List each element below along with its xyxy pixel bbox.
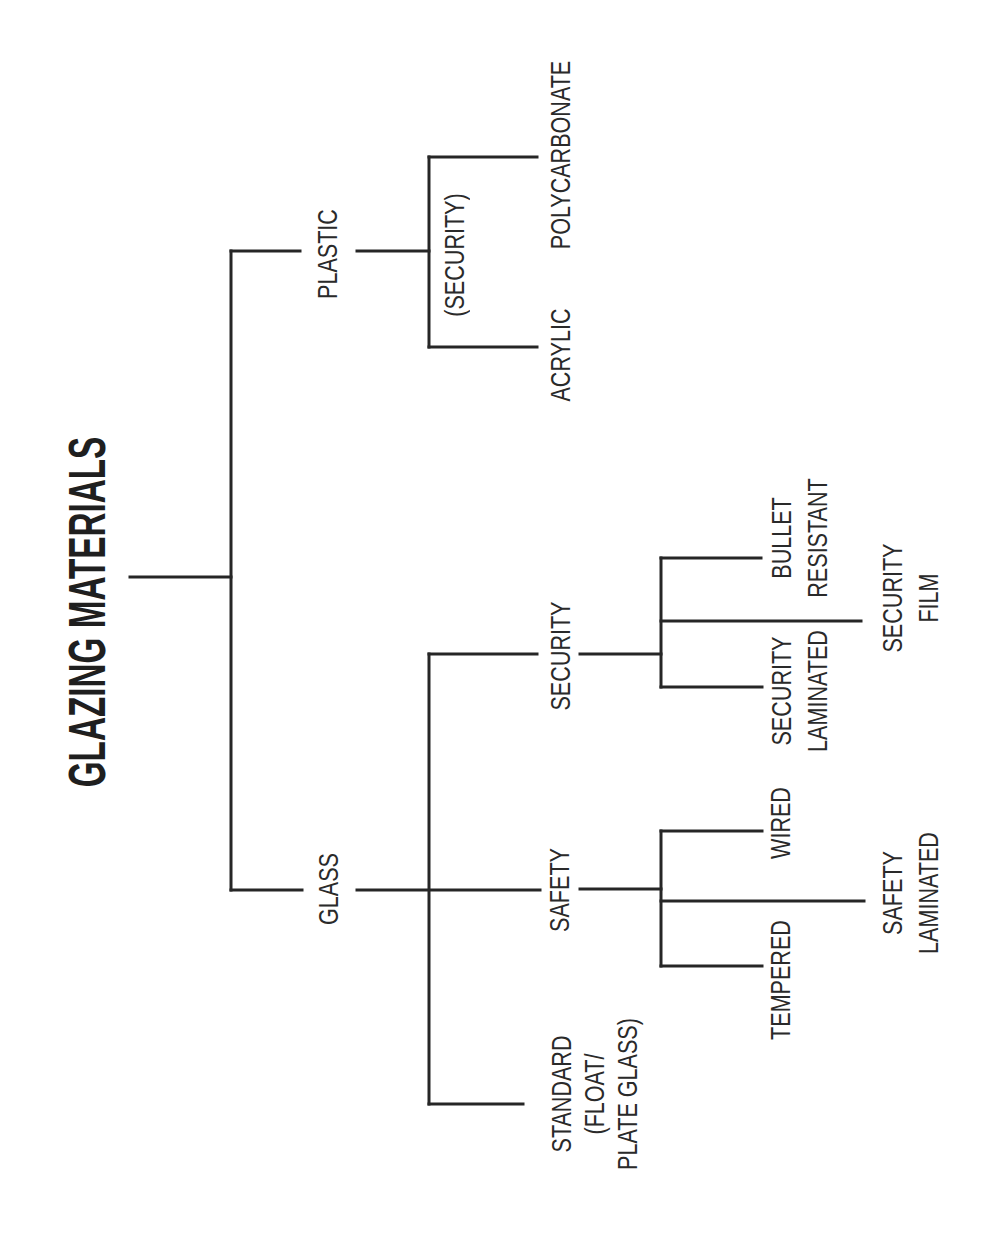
plastic-group-note: (SECURITY)	[455, 255, 615, 283]
node-security-laminated-line-2: LAMINATED	[800, 630, 836, 752]
node-security-film-line-2: FILM	[911, 543, 947, 652]
node-bullet-resistant-line-1: BULLET	[764, 478, 800, 597]
node-wired-label: WIRED	[767, 787, 795, 859]
node-security-glass: SECURITY	[561, 656, 703, 684]
node-wired: WIRED	[781, 823, 874, 851]
node-plastic-label: PLASTIC	[314, 209, 342, 299]
glazing-materials-diagram: GLAZING MATERIALS PLASTIC GLASS (SECURIT…	[0, 0, 1001, 1237]
node-safety-laminated-line-2: LAMINATED	[911, 832, 947, 954]
node-acrylic-label: ACRYLIC	[547, 308, 575, 401]
node-standard-line-1: STANDARD	[545, 1018, 578, 1170]
node-bullet-resistant-line-2: RESISTANT	[800, 478, 836, 597]
node-standard-glass: STANDARD (FLOAT/ PLATE GLASS)	[595, 1094, 792, 1193]
node-polycarbonate-label: POLYCARBONATE	[547, 61, 575, 249]
node-safety-laminated-line-1: SAFETY	[875, 832, 911, 954]
node-glass: GLASS	[329, 889, 422, 917]
node-standard-line-2: (FLOAT/	[578, 1018, 611, 1170]
node-plastic: PLASTIC	[328, 254, 445, 282]
node-acrylic: ACRYLIC	[561, 355, 682, 383]
node-security-laminated: SECURITY LAMINATED	[800, 691, 958, 764]
diagram-title-text: GLAZING MATERIALS	[61, 437, 113, 788]
plastic-group-note-text: (SECURITY)	[441, 193, 469, 316]
node-polycarbonate: POLYCARBONATE	[561, 155, 806, 183]
node-security-glass-label: SECURITY	[547, 601, 575, 710]
node-security-film: SECURITY FILM	[911, 598, 1001, 671]
node-safety-glass-label: SAFETY	[546, 848, 574, 932]
node-tempered: TEMPERED	[781, 980, 937, 1008]
node-tempered-label: TEMPERED	[767, 920, 795, 1040]
node-safety-glass: SAFETY	[560, 890, 669, 918]
node-safety-laminated: SAFETY LAMINATED	[911, 893, 1001, 966]
node-glass-label: GLASS	[315, 853, 343, 925]
node-standard-line-3: PLATE GLASS)	[612, 1018, 645, 1170]
node-security-film-line-1: SECURITY	[875, 543, 911, 652]
node-security-laminated-line-1: SECURITY	[764, 630, 800, 752]
